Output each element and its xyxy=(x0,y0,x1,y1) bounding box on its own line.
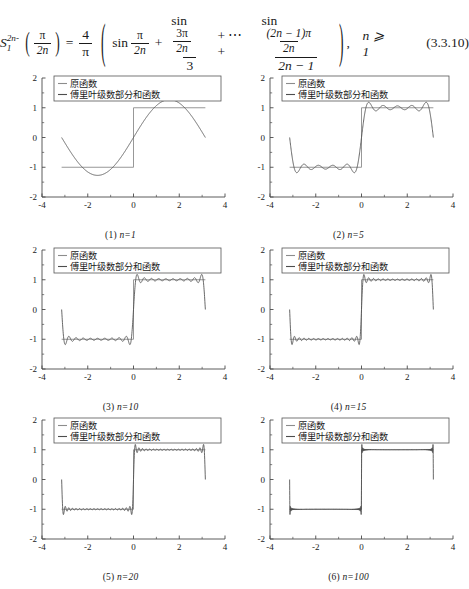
legend-item-original-label: 原函数 xyxy=(70,250,97,261)
x-tick-label: 4 xyxy=(223,200,228,210)
x-tick-label: -2 xyxy=(312,372,320,382)
y-tick-label: 1 xyxy=(33,445,38,455)
x-tick-label: 2 xyxy=(177,200,182,210)
y-tick-label: -1 xyxy=(30,162,38,172)
x-tick-label: 0 xyxy=(131,200,136,210)
lhs-arg-numerator: π xyxy=(37,30,49,43)
chart-svg: -4-2024-2-1012原函数傅里叶级数部分和函数 xyxy=(8,240,233,395)
caption-param-5: n=20 xyxy=(117,572,138,582)
coefficient-denominator: π xyxy=(79,43,92,59)
plot-area-2: -4-2024-2-1012原函数傅里叶级数部分和函数 xyxy=(236,68,461,223)
legend-item-partial-sum-label: 傅里叶级数部分和函数 xyxy=(70,261,160,272)
equals-sign: = xyxy=(66,35,74,51)
x-tick-label: -4 xyxy=(38,372,46,382)
x-tick-label: -2 xyxy=(312,200,320,210)
y-tick-label: -2 xyxy=(30,534,38,544)
term2-sin-operator: sin xyxy=(171,13,187,28)
legend-item-original-label: 原函数 xyxy=(298,78,325,89)
chart-svg: -4-2024-2-1012原函数傅里叶级数部分和函数 xyxy=(236,68,461,223)
term3-numerator: sin(2n − 1)π2n xyxy=(258,14,334,57)
figure-panel-3: -4-2024-2-1012原函数傅里叶级数部分和函数 (3) n=10 xyxy=(8,240,233,414)
x-tick-label: -4 xyxy=(266,372,274,382)
x-tick-label: 0 xyxy=(131,372,136,382)
figure-panel-4: -4-2024-2-1012原函数傅里叶级数部分和函数 (4) n=15 xyxy=(236,240,461,414)
x-tick-label: -4 xyxy=(266,542,274,552)
legend-item-original-label: 原函数 xyxy=(298,250,325,261)
figure-panel-2: -4-2024-2-1012原函数傅里叶级数部分和函数 (2) n=5 xyxy=(236,68,461,242)
paren-open-left: ( xyxy=(25,27,30,60)
legend-item-partial-sum-label: 傅里叶级数部分和函数 xyxy=(70,89,160,100)
paren-close-big: ) xyxy=(339,15,344,73)
equation-3-3-10: S2n-1 ( π 2n ) = 4 π ( sin π 2n + sin3π2… xyxy=(0,14,469,73)
equation-lhs-subscript: 2n-1 xyxy=(7,33,23,53)
term1-denominator: 2n xyxy=(131,43,149,57)
x-tick-label: 4 xyxy=(451,200,456,210)
ellipsis-terms: + ⋯ + xyxy=(217,27,252,60)
term2-inner-fraction: 3π2n xyxy=(173,28,191,55)
y-tick-label: 1 xyxy=(33,103,38,113)
term2-outer-fraction: sin3π2n 3 xyxy=(168,14,211,73)
y-tick-label: -2 xyxy=(30,192,38,202)
x-tick-label: 2 xyxy=(177,372,182,382)
y-tick-label: 1 xyxy=(261,275,266,285)
y-tick-label: 2 xyxy=(261,245,266,255)
x-tick-label: 2 xyxy=(177,542,182,552)
legend-item-original-label: 原函数 xyxy=(70,420,97,431)
term3-inner-numerator: (2n − 1)π xyxy=(263,28,314,41)
term1-numerator: π xyxy=(134,30,146,43)
legend-item-original-label: 原函数 xyxy=(298,420,325,431)
y-tick-label: 0 xyxy=(33,475,38,485)
caption-param-6: n=100 xyxy=(342,572,368,582)
y-tick-label: -2 xyxy=(258,192,266,202)
x-tick-label: -2 xyxy=(84,542,92,552)
x-tick-label: 0 xyxy=(359,542,364,552)
term2-numerator: sin3π2n xyxy=(168,14,211,57)
coefficient-numerator: 4 xyxy=(79,28,92,43)
paren-open-big: ( xyxy=(101,15,106,73)
x-tick-label: -4 xyxy=(38,200,46,210)
x-tick-label: 2 xyxy=(405,372,410,382)
y-tick-label: -1 xyxy=(30,334,38,344)
figure-panel-1: -4-2024-2-1012原函数傅里叶级数部分和函数 (1) n=1 xyxy=(8,68,233,242)
figure-grid: -4-2024-2-1012原函数傅里叶级数部分和函数 (1) n=1 -4-2… xyxy=(0,66,469,589)
chart-svg: -4-2024-2-1012原函数傅里叶级数部分和函数 xyxy=(8,68,233,223)
legend-item-partial-sum-label: 傅里叶级数部分和函数 xyxy=(298,431,388,442)
x-tick-label: 4 xyxy=(223,542,228,552)
y-tick-label: 0 xyxy=(33,305,38,315)
equation-lhs-symbol: S xyxy=(0,35,7,51)
y-tick-label: -2 xyxy=(258,534,266,544)
figure-panel-6: -4-2024-2-1012原函数傅里叶级数部分和函数 (6) n=100 xyxy=(236,410,461,584)
y-tick-label: 0 xyxy=(261,475,266,485)
figure-caption-5: (5) n=20 xyxy=(8,572,233,582)
term3-inner-denominator: 2n xyxy=(280,41,298,55)
figure-caption-6: (6) n=100 xyxy=(236,572,461,582)
figure-caption-1: (1) n=1 xyxy=(8,230,233,240)
x-tick-label: -2 xyxy=(84,200,92,210)
term3-sin-operator: sin xyxy=(261,13,277,28)
y-tick-label: 2 xyxy=(33,245,38,255)
term3-inner-fraction: (2n − 1)π2n xyxy=(263,28,314,55)
figure-panel-5: -4-2024-2-1012原函数傅里叶级数部分和函数 (5) n=20 xyxy=(8,410,233,584)
y-tick-label: -2 xyxy=(30,364,38,374)
y-tick-label: 1 xyxy=(33,275,38,285)
y-tick-label: 2 xyxy=(261,73,266,83)
plot-area-1: -4-2024-2-1012原函数傅里叶级数部分和函数 xyxy=(8,68,233,223)
figure-caption-2: (2) n=5 xyxy=(236,230,461,240)
coefficient-fraction: 4 π xyxy=(79,28,92,59)
y-tick-label: -1 xyxy=(258,334,266,344)
y-tick-label: 0 xyxy=(261,133,266,143)
x-tick-label: -4 xyxy=(266,200,274,210)
term3-outer-fraction: sin(2n − 1)π2n 2n − 1 xyxy=(258,14,334,73)
equation-number-tag: (3.3.10) xyxy=(426,35,469,51)
x-tick-label: 4 xyxy=(451,542,456,552)
plot-area-5: -4-2024-2-1012原函数傅里叶级数部分和函数 xyxy=(8,410,233,565)
chart-svg: -4-2024-2-1012原函数傅里叶级数部分和函数 xyxy=(8,410,233,565)
caption-param-1: n=1 xyxy=(119,230,136,240)
legend-item-partial-sum-label: 傅里叶级数部分和函数 xyxy=(70,431,160,442)
x-tick-label: 0 xyxy=(131,542,136,552)
term2-inner-denominator: 2n xyxy=(173,41,191,55)
plot-area-3: -4-2024-2-1012原函数傅里叶级数部分和函数 xyxy=(8,240,233,395)
y-tick-label: 2 xyxy=(261,415,266,425)
caption-index-2: (2) xyxy=(333,230,345,240)
caption-param-2: n=5 xyxy=(347,230,364,240)
